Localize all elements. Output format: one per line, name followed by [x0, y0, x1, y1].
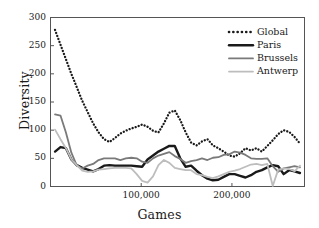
y-axis-title: Diversity — [17, 51, 32, 151]
series-line-paris — [55, 146, 300, 180]
x-tick-label: 100,000 — [111, 190, 171, 200]
series-line-brussels — [55, 114, 300, 171]
legend-label-brussels: Brussels — [257, 52, 298, 63]
x-tick-label: 200,000 — [202, 190, 262, 200]
legend-label-paris: Paris — [257, 39, 281, 50]
y-tick-label: 50 — [14, 152, 46, 162]
legend-label-global: Global — [257, 26, 288, 37]
y-tick-label: 250 — [14, 40, 46, 50]
legend-swatches — [229, 32, 253, 72]
diversity-vs-games-chart: 050100150200250300 100,000200,000 Global… — [0, 0, 319, 228]
x-axis-title: Games — [0, 207, 319, 222]
y-tick-label: 0 — [14, 181, 46, 191]
legend-label-antwerp: Antwerp — [257, 65, 298, 76]
y-tick-label: 300 — [14, 12, 46, 22]
